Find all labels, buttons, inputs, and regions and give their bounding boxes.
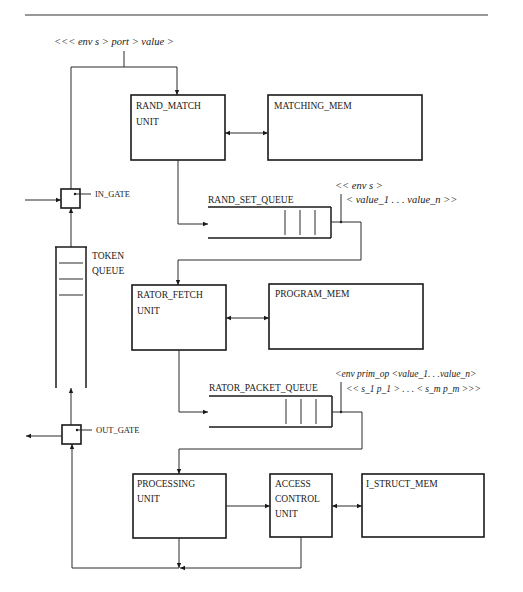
processing-label-2: UNIT bbox=[137, 494, 160, 504]
rand-match-label-2: UNIT bbox=[136, 117, 159, 127]
access-control-label-3: UNIT bbox=[275, 509, 298, 519]
matching-mem: MATCHING_MEM bbox=[268, 95, 422, 160]
rator-fetch-label-1: RATOR_FETCH bbox=[137, 290, 203, 300]
matching-mem-label: MATCHING_MEM bbox=[274, 101, 352, 111]
arrow-to-rand-set-queue bbox=[178, 160, 208, 224]
rand-set-queue-label: RAND_SET_QUEUE bbox=[208, 195, 294, 205]
rator-packet-queue-label: RATOR_PACKET_QUEUE bbox=[209, 383, 318, 393]
processing-unit: PROCESSING UNIT bbox=[133, 474, 226, 538]
rator-packet-line-2: << s_1 p_1 > . . . < s_m p_m >>> bbox=[346, 384, 481, 394]
rator-fetch-unit: RATOR_FETCH UNIT bbox=[132, 285, 226, 350]
i-struct-mem: I_STRUCT_MEM bbox=[362, 474, 484, 537]
rand-match-unit: RAND_MATCH UNIT bbox=[131, 95, 225, 160]
access-control-unit: ACCESS CONTROL UNIT bbox=[270, 474, 332, 537]
rand-set-packet-line-1: << env s > bbox=[335, 180, 383, 191]
rand-match-label-1: RAND_MATCH bbox=[136, 101, 201, 111]
arrow-access-control-return bbox=[180, 537, 301, 568]
arrow-to-rator-packet-queue bbox=[179, 350, 208, 412]
in-gate-label: IN_GATE bbox=[95, 189, 130, 199]
in-gate: IN_GATE bbox=[61, 189, 130, 208]
program-mem-label: PROGRAM_MEM bbox=[275, 289, 350, 299]
program-mem: PROGRAM_MEM bbox=[269, 284, 423, 349]
access-control-label-1: ACCESS bbox=[275, 479, 311, 489]
access-control-label-2: CONTROL bbox=[275, 494, 320, 504]
rand-set-queue: RAND_SET_QUEUE bbox=[208, 195, 331, 238]
token-queue-label-2: QUEUE bbox=[92, 266, 124, 276]
arrow-to-processing bbox=[179, 412, 362, 474]
rator-packet-line-1: <env prim_op <value_1. . .value_n> bbox=[335, 369, 476, 379]
input-token-label: <<< env s > port > value > bbox=[54, 36, 174, 47]
i-struct-mem-label: I_STRUCT_MEM bbox=[366, 479, 438, 489]
rator-packet-queue: RATOR_PACKET_QUEUE bbox=[209, 383, 332, 427]
token-queue: TOKEN QUEUE bbox=[55, 247, 124, 388]
out-gate: OUT_GATE bbox=[62, 425, 139, 444]
rator-fetch-label-2: UNIT bbox=[137, 306, 160, 316]
arrow-to-rator-fetch bbox=[178, 222, 361, 285]
token-queue-label-1: TOKEN bbox=[92, 251, 124, 261]
rand-set-packet-line-2: < value_1 . . . value_n >> bbox=[346, 194, 457, 205]
out-gate-label: OUT_GATE bbox=[96, 425, 139, 435]
dataflow-diagram: <<< env s > port > value > RAND_MATCH UN… bbox=[0, 0, 523, 592]
processing-label-1: PROCESSING bbox=[137, 479, 195, 489]
